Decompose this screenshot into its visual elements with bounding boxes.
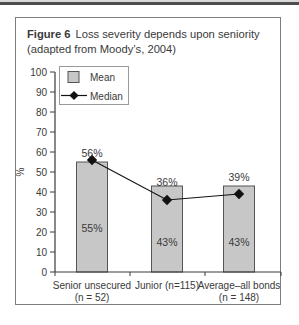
- y-tick-label: 50: [36, 167, 48, 178]
- x-category-label: Senior unsecured: [53, 280, 131, 291]
- y-tick-label: 80: [36, 107, 48, 118]
- x-category-label: Junior (n=115): [135, 280, 199, 291]
- y-tick-label: 30: [36, 207, 48, 218]
- y-tick-label: 40: [36, 187, 48, 198]
- y-tick-label: 0: [41, 267, 47, 278]
- x-category-sublabel: (n = 148): [219, 292, 259, 303]
- median-value-label: 36%: [156, 176, 177, 188]
- y-tick-label: 70: [36, 127, 48, 138]
- y-tick-label: 100: [30, 67, 47, 78]
- mean-value-label: 43%: [228, 236, 249, 248]
- y-tick-label: 60: [36, 147, 48, 158]
- mean-bar: [77, 162, 108, 272]
- y-axis-label: %: [15, 167, 26, 176]
- legend-median-label: Median: [90, 91, 123, 102]
- median-value-label: 39%: [228, 171, 249, 183]
- x-category-sublabel: (n = 52): [75, 292, 110, 303]
- median-value-label: 56%: [81, 147, 102, 159]
- mean-value-label: 43%: [156, 236, 177, 248]
- page: Figure 6Loss severity depends upon senio…: [0, 0, 299, 325]
- legend-mean-swatch: [68, 72, 79, 83]
- x-category-label: Average–all bonds: [198, 280, 281, 291]
- y-tick-label: 90: [36, 87, 48, 98]
- legend-mean-label: Mean: [90, 72, 115, 83]
- y-tick-label: 10: [36, 247, 48, 258]
- y-tick-label: 20: [36, 227, 48, 238]
- mean-value-label: 55%: [81, 222, 102, 234]
- loss-severity-chart: 55%43%43%56%36%39%0102030405060708090100…: [0, 0, 299, 325]
